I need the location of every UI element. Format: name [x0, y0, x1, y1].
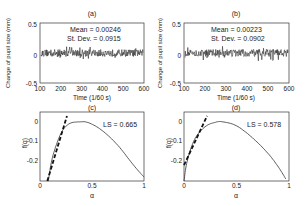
x-tick-label: 400: [242, 85, 253, 92]
panel-a-xticks: 100 200 300 400 500 600: [35, 85, 150, 92]
y-tick-label: 0: [34, 118, 38, 125]
y-tick-label: 0: [33, 52, 37, 59]
panel-b-std: St. Dev. = 0.0902: [211, 35, 265, 42]
x-tick-label: 300: [76, 85, 87, 92]
panel-b-title: (b): [232, 10, 241, 18]
x-tick-label: 1: [142, 182, 146, 189]
y-tick-label: 0: [177, 52, 181, 59]
panel-c-ylabel: f(α): [21, 138, 29, 148]
x-tick-label: 0: [38, 182, 42, 189]
panel-d-xlabel: α: [234, 192, 238, 199]
x-tick-label: 1: [287, 182, 291, 189]
panel-c-ls: LS = 0.665: [103, 121, 137, 128]
panel-c-fit-line: [47, 116, 67, 181]
x-tick-label: 200: [55, 85, 66, 92]
x-tick-label: 0.5: [87, 182, 96, 189]
y-tick-label: -0.2: [171, 157, 183, 164]
panel-d-fit-line: [184, 116, 207, 165]
panel-d-ls: LS = 0.578: [247, 121, 281, 128]
panel-a: (a) Mean = 0.00246 St. Dev. = 0.0915 0.5…: [5, 10, 150, 102]
panel-c-xlabel: α: [90, 192, 94, 199]
panel-a-mean: Mean = 0.00246: [70, 26, 121, 33]
panel-b-mean: Mean = 0.00223: [211, 26, 262, 33]
y-tick-label: 0.5: [28, 21, 37, 28]
x-tick-label: 0.5: [232, 182, 241, 189]
panel-b-signal: [185, 46, 288, 61]
panel-b: (b) Mean = 0.00223 St. Dev. = 0.0902 0.5…: [157, 10, 295, 102]
x-tick-label: 600: [284, 85, 295, 92]
x-tick-label: 0: [182, 182, 186, 189]
panel-a-ylabel: Change of pupil size (mm): [5, 18, 11, 88]
x-tick-label: 400: [97, 85, 108, 92]
panel-c: (c) LS = 0.665 0 -0.1 -0.2 0 0.5 1 α f(α…: [21, 104, 146, 199]
y-tick-label: -0.1: [171, 137, 183, 144]
y-tick-label: 0.5: [172, 21, 181, 28]
panel-a-xlabel: Time (1/60 s): [73, 94, 111, 102]
x-tick-label: 500: [263, 85, 274, 92]
panel-c-xticks: 0 0.5 1: [38, 182, 146, 189]
x-tick-label: 200: [200, 85, 211, 92]
panel-d: (d) LS = 0.578 0 -0.1 -0.2 0 0.5 1 α f(α…: [165, 104, 291, 199]
figure: (a) Mean = 0.00246 St. Dev. = 0.0915 0.5…: [0, 0, 306, 206]
panel-d-spectrum: [184, 122, 286, 182]
x-tick-label: 500: [118, 85, 129, 92]
panel-b-ylabel: Change of pupil size (mm): [157, 18, 163, 88]
x-tick-label: 300: [221, 85, 232, 92]
panel-a-title: (a): [88, 10, 97, 18]
panel-b-xlabel: Time (1/60 s): [217, 94, 255, 102]
panel-b-xticks: 100 200 300 400 500 600: [179, 85, 295, 92]
panel-a-std: St. Dev. = 0.0915: [67, 35, 121, 42]
y-tick-label: -0.2: [27, 157, 39, 164]
panel-d-title: (d): [232, 104, 241, 112]
panel-d-ylabel: f(α): [165, 138, 173, 148]
panel-c-title: (c): [88, 104, 96, 112]
y-tick-label: -0.1: [27, 137, 39, 144]
panel-d-xticks: 0 0.5 1: [182, 182, 291, 189]
y-tick-label: 0: [178, 118, 182, 125]
panel-c-spectrum: [48, 122, 144, 181]
panel-a-signal: [41, 47, 143, 59]
x-tick-label: 100: [179, 85, 190, 92]
x-tick-label: 100: [35, 85, 46, 92]
x-tick-label: 600: [139, 85, 150, 92]
